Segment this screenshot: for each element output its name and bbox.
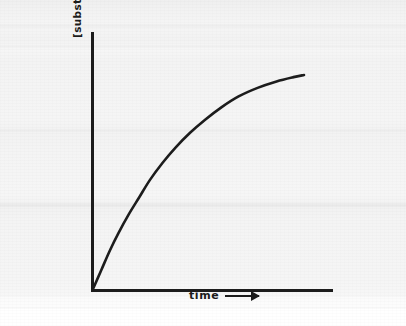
arrow-right-icon <box>225 291 259 301</box>
figure-canvas: [substrate] utilized or [product] formed… <box>0 0 406 326</box>
progress-curve <box>93 75 304 289</box>
y-axis-label-text: [substrate] utilized or [product] formed <box>67 0 87 38</box>
x-axis-label-text: time <box>189 289 219 303</box>
x-axis-label: time <box>189 289 259 303</box>
y-axis-label: [substrate] utilized or [product] formed <box>66 0 87 38</box>
plot-area <box>0 0 406 326</box>
